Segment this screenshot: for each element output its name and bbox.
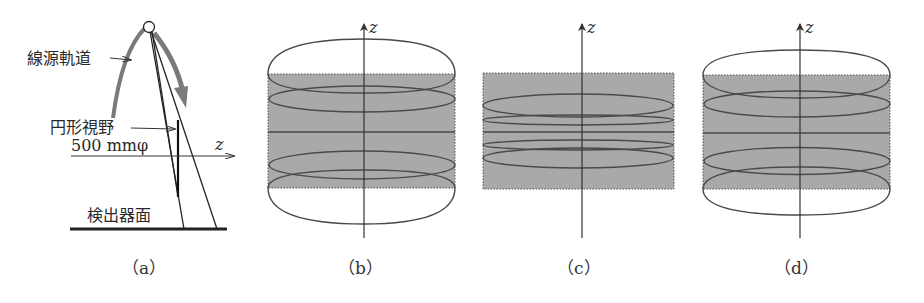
x-ray-source-icon	[144, 22, 155, 33]
z-axis-label-d: z	[805, 18, 813, 37]
z-axis-label-c: z	[587, 18, 595, 37]
z-axis-label-a: z	[215, 135, 223, 154]
caption-a: （a）	[122, 259, 166, 277]
detector-label: 検出器面	[87, 208, 151, 224]
caption-c: （c）	[557, 259, 601, 277]
fov-region-c	[483, 73, 674, 189]
fov-label: 円形視野	[50, 120, 114, 136]
caption-d: （d）	[774, 259, 819, 277]
fov-size-label: 500 mmφ	[71, 138, 148, 154]
source-orbit-label: 線源軌道	[27, 51, 91, 67]
source-orbit-arc	[113, 28, 145, 118]
caption-b: （b）	[338, 259, 383, 277]
panel-b-geometry	[268, 24, 455, 238]
panel-c-geometry	[483, 24, 674, 238]
fov-region-b	[268, 74, 455, 188]
z-axis-label-b: z	[369, 18, 377, 37]
panel-d-geometry	[703, 24, 890, 238]
